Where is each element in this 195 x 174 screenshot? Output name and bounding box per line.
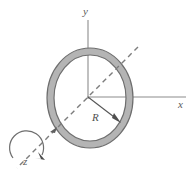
rotation-curved-arrow <box>10 131 44 158</box>
z-axis-arrowhead <box>50 127 57 133</box>
radius-dimension-label: R <box>92 112 99 123</box>
radius-arrowhead <box>112 113 121 123</box>
x-axis-label: x <box>178 99 183 110</box>
y-axis-label: y <box>83 6 88 17</box>
rotation-arrowhead <box>35 152 45 160</box>
z-axis-label: z <box>23 156 27 167</box>
ring-axes-figure: y x z R <box>0 0 195 174</box>
figure-canvas <box>0 0 195 174</box>
